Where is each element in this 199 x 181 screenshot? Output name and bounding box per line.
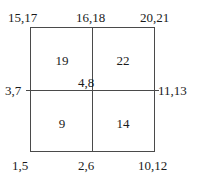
label-top-right: 20,21 [140,11,169,24]
label-bottom-left: 1,5 [12,159,28,172]
label-middle-right: 11,13 [158,84,187,97]
quadrant-diagram: 15,17 16,18 20,21 3,7 4,8 11,13 1,5 2,6 … [0,0,199,181]
label-center: 4,8 [78,76,94,89]
quadrant-label-bottom-left: 9 [52,117,72,130]
horizontal-divider-line [26,90,159,91]
label-middle-left: 3,7 [5,84,21,97]
quadrant-label-top-right: 22 [113,54,133,67]
label-bottom-right: 10,12 [138,159,167,172]
label-top-center: 16,18 [76,11,105,24]
label-top-left: 15,17 [8,11,37,24]
quadrant-label-top-left: 19 [52,54,72,67]
quadrant-label-bottom-right: 14 [113,117,133,130]
label-bottom-center: 2,6 [78,159,94,172]
